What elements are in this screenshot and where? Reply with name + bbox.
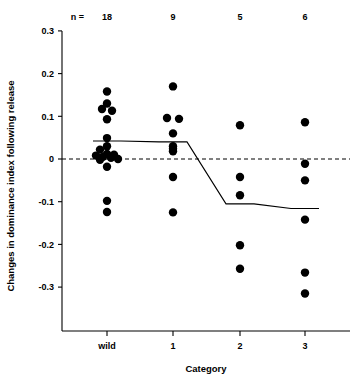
data-point (114, 155, 122, 163)
data-point (301, 159, 309, 167)
data-point (163, 114, 171, 122)
data-point (301, 118, 309, 126)
data-point (301, 176, 309, 184)
y-tick-label-5: -0.2 (38, 240, 54, 250)
sample-size-row: n =18956 (71, 12, 308, 22)
scatter-plot-figure: n =18956 0.30.20.10-0.1-0.2-0.3 wild123 … (0, 0, 361, 378)
data-point (175, 115, 183, 123)
y-tick-label-4: -0.1 (38, 197, 54, 207)
data-point (236, 265, 244, 273)
data-point (96, 156, 104, 164)
data-points-group (92, 82, 309, 297)
y-tick-group: 0.30.20.10-0.1-0.2-0.3 (38, 26, 62, 292)
mean-line-path (93, 141, 319, 208)
y-axis-title: Changes in dominance index following rel… (5, 80, 16, 291)
n-prefix-label: n = (71, 12, 84, 22)
data-point (236, 121, 244, 129)
x-tick-label-wild: wild (97, 341, 116, 351)
data-point (236, 191, 244, 199)
data-point (301, 289, 309, 297)
data-point (169, 82, 177, 90)
data-point (107, 154, 115, 162)
sample-size-value-3: 6 (302, 12, 307, 22)
y-tick-label-6: -0.3 (38, 282, 54, 292)
data-point (236, 173, 244, 181)
mean-trend-line (93, 141, 319, 208)
data-point (103, 134, 111, 142)
data-point (169, 129, 177, 137)
data-point (108, 107, 116, 115)
y-tick-label-3: 0 (49, 154, 54, 164)
sample-size-value-2: 5 (237, 12, 242, 22)
sample-size-value-1: 9 (170, 12, 175, 22)
y-tick-label-0: 0.3 (41, 26, 54, 36)
data-point (103, 115, 111, 123)
x-tick-group: wild123 (97, 331, 307, 351)
plot-canvas: n =18956 0.30.20.10-0.1-0.2-0.3 wild123 … (0, 0, 361, 378)
data-point (103, 197, 111, 205)
x-tick-label-1: 1 (170, 341, 175, 351)
x-tick-label-2: 2 (237, 341, 242, 351)
y-tick-label-2: 0.1 (41, 112, 54, 122)
data-point (103, 208, 111, 216)
x-axis-title: Category (185, 363, 227, 374)
data-point (169, 147, 177, 155)
y-tick-label-1: 0.2 (41, 69, 54, 79)
data-point (301, 215, 309, 223)
sample-size-value-wild: 18 (102, 12, 112, 22)
data-point (301, 268, 309, 276)
x-tick-label-3: 3 (302, 341, 307, 351)
data-point (169, 173, 177, 181)
data-point (236, 241, 244, 249)
data-point (98, 105, 106, 113)
data-point (103, 162, 111, 170)
data-point (103, 87, 111, 95)
data-point (169, 208, 177, 216)
